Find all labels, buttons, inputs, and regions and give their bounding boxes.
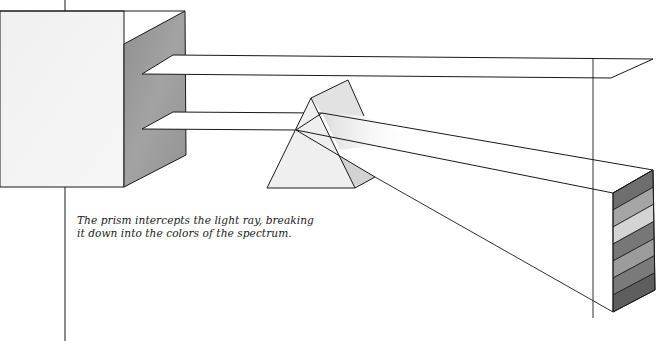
upper-beam [142, 55, 653, 78]
lower-beam [142, 112, 322, 130]
prism-diagram [0, 0, 670, 341]
prism [267, 80, 420, 188]
caption-line-1: The prism intercepts the light ray, brea… [77, 214, 337, 227]
caption-line-2: it down into the colors of the spectrum. [77, 227, 337, 240]
box-side-face [124, 11, 186, 187]
figure-caption: The prism intercepts the light ray, brea… [77, 214, 337, 240]
light-source-box [0, 11, 186, 187]
spectrum-panel [613, 170, 655, 312]
box-front-face [0, 11, 124, 187]
